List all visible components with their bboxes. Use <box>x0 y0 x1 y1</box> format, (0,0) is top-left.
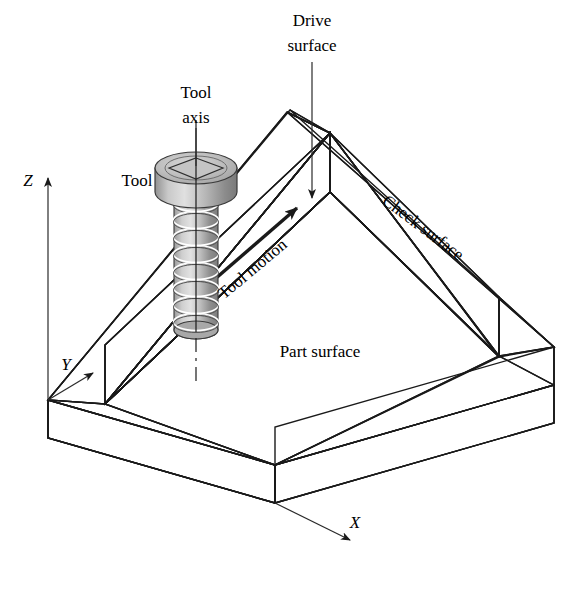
axis-y <box>48 373 93 400</box>
label-tool: Tool <box>122 171 153 190</box>
label-part-surface: Part surface <box>280 342 361 361</box>
isometric-scene: Tool axis Tool Drive surface Check surfa… <box>0 0 577 593</box>
label-tool-axis-line1: Tool <box>181 83 212 102</box>
label-drive-surface-line1: Drive <box>293 11 332 30</box>
block-outer-left-face <box>48 400 275 503</box>
label-drive-surface-line2: surface <box>287 36 336 55</box>
block-outer-left-wall <box>48 400 275 503</box>
label-axis-z: Z <box>23 171 33 190</box>
label-axis-y: Y <box>61 355 72 374</box>
wall-end-cap-right <box>499 297 554 385</box>
axis-x <box>275 503 350 540</box>
label-tool-axis-line2: axis <box>182 108 209 127</box>
outer-face-left <box>48 400 275 503</box>
block-outer-right-face <box>275 347 554 465</box>
diagram-figure: Tool axis Tool Drive surface Check surfa… <box>0 0 577 593</box>
label-axis-x: X <box>349 513 361 532</box>
